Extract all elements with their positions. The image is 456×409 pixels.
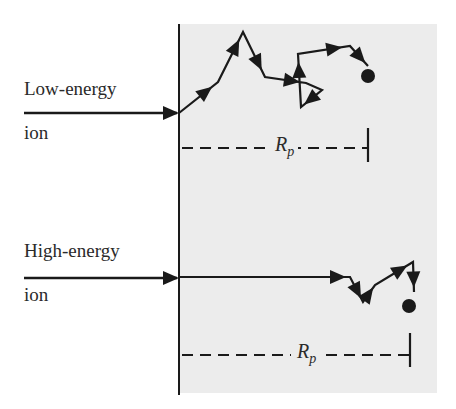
low-energy-label-line2: ion [24,122,48,143]
high-energy-label-line1: High-energy [24,240,120,261]
arrowhead-icon [163,271,179,285]
low-energy-label-line1: Low-energy [24,78,117,99]
range-symbol: R [297,340,309,362]
high-energy-label-line2: ion [24,284,48,305]
range-subscript: p [287,144,294,159]
arrowhead-icon [163,106,179,120]
low-energy-ion-label: Low-energy ion [24,56,117,144]
high-energy-ion-label: High-energy ion [24,218,120,306]
high-energy-stop-point [402,299,416,313]
range-subscript: p [309,351,316,366]
low-energy-range-label: Rp [271,133,298,160]
low-energy-stop-point [361,69,375,83]
range-symbol: R [275,133,287,155]
high-energy-range-label: Rp [291,340,322,367]
